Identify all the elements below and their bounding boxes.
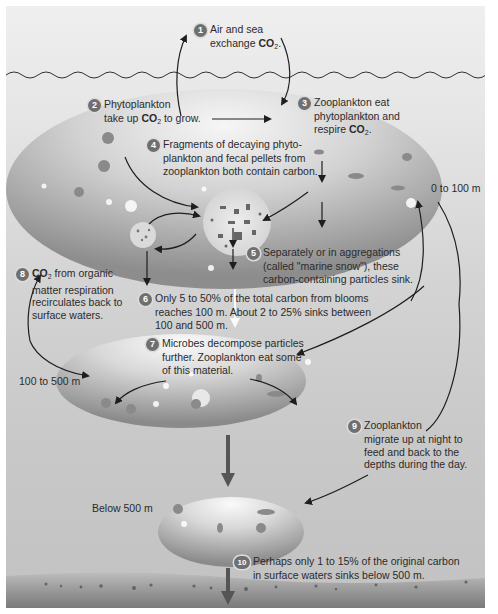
- step-6-label: 6Only 5 to 50% of the total carbon from …: [139, 292, 371, 331]
- step-2-label: 2Phytoplankton take up CO2 to grow.: [88, 98, 201, 129]
- step-3-badge: 3: [298, 97, 311, 110]
- step-10-badge: 10: [234, 556, 250, 569]
- step-8-label: 8CO2 from organic matter respiration rec…: [16, 267, 122, 321]
- step-9-label: 9Zooplankton migrate up at night to feed…: [348, 419, 467, 471]
- sea-surface-wave: [6, 72, 485, 78]
- step-1-label: 1Air and sea exchange CO2.: [194, 23, 281, 54]
- step-5-badge: 5: [247, 247, 260, 260]
- arrow-migration-column: [438, 202, 460, 304]
- step-4-label: 4Fragments of decaying phyto- plankton a…: [147, 138, 318, 177]
- step-10-label: 10Perhaps only 1 to 15% of the original …: [234, 555, 460, 582]
- diagram-frame: 1Air and sea exchange CO2. 2Phytoplankto…: [6, 6, 485, 608]
- arrow-migration-to-deep: [306, 475, 368, 503]
- step-7-label: 7Microbes decompose particles further. Z…: [146, 337, 304, 376]
- step-7-badge: 7: [146, 338, 159, 351]
- step-2-badge: 2: [88, 99, 101, 112]
- step-5-label: 5Separately or in aggregations (called "…: [247, 246, 413, 285]
- depth-label-mid: 100 to 500 m: [19, 375, 80, 387]
- depth-label-surface: 0 to 100 m: [431, 182, 481, 194]
- arrow-migration-deep: [426, 304, 460, 431]
- step-1-badge: 1: [194, 24, 207, 37]
- step-4-badge: 4: [147, 139, 160, 152]
- step-9-badge: 9: [348, 420, 361, 433]
- step-3-label: 3Zooplankton eat phytoplankton and respi…: [298, 96, 400, 139]
- step-8-badge: 8: [16, 268, 29, 281]
- depth-label-deep: Below 500 m: [92, 502, 153, 514]
- step-6-badge: 6: [139, 293, 152, 306]
- small-aggregate: [130, 222, 156, 248]
